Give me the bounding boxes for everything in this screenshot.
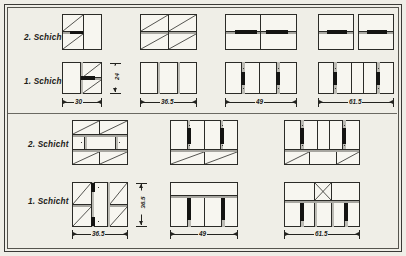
row-label-top-upper: 2. Schicht	[24, 33, 65, 42]
dimension-bottom-49: 49	[170, 230, 238, 240]
hatch-diagonal	[63, 34, 83, 49]
vertical-dimension-bottom: 36.5	[134, 182, 148, 227]
vertical-dimension-top-label: 24	[113, 66, 120, 88]
dimension-top-365-label: 36.5	[160, 98, 174, 105]
dimension-top-365: 36.5	[140, 98, 197, 108]
brick-cell-bottom-lower-365	[72, 182, 128, 227]
brick-cell-bottom-upper-365	[72, 120, 128, 165]
dimension-top-30: 30	[62, 98, 102, 108]
brick-cell-top-upper-30	[62, 14, 102, 50]
brick-cell-top-lower-615	[318, 62, 394, 94]
dimension-top-49: 49	[225, 98, 297, 108]
dimension-top-615-label: 61.5	[348, 98, 362, 105]
group-divider	[8, 113, 397, 114]
brick-cell-top-lower-30	[62, 62, 102, 94]
row-label-top-lower: 1. Schicht	[24, 77, 65, 86]
drawing-sheet: 2. Schicht 1. Schicht 2. Schicht 1. Schi…	[0, 0, 406, 256]
vertical-dimension-top: 24	[108, 62, 122, 94]
brick-cell-bottom-lower-615	[284, 182, 360, 227]
brick-cell-top-upper-365	[140, 14, 197, 50]
dimension-top-615: 61.5	[318, 98, 394, 108]
brick-cell-top-upper-615	[318, 14, 394, 50]
vertical-dimension-bottom-label: 36.5	[139, 191, 146, 215]
brick-cell-bottom-lower-49	[170, 182, 238, 227]
dimension-bottom-49-label: 49	[198, 230, 207, 237]
brick-cell-top-lower-365	[140, 62, 197, 94]
dimension-bottom-365: 36.5	[72, 230, 128, 240]
brick-cell-top-upper-49	[225, 14, 297, 50]
hatch-diagonal	[63, 15, 83, 31]
brick-cell-top-lower-49	[225, 62, 297, 94]
hatch-cross-icon	[315, 183, 331, 200]
brick-cell-bottom-upper-49	[170, 120, 238, 165]
dimension-bottom-615: 61.5	[284, 230, 360, 240]
brick-cell-bottom-upper-615	[284, 120, 360, 165]
row-label-bottom-lower: 1. Schicht	[28, 197, 69, 206]
dimension-bottom-365-label: 36.5	[91, 230, 105, 237]
row-label-bottom-upper: 2. Schicht	[28, 140, 69, 149]
dimension-bottom-615-label: 61.5	[314, 230, 328, 237]
dimension-top-30-label: 30	[74, 98, 83, 105]
dimension-top-49-label: 49	[255, 98, 264, 105]
